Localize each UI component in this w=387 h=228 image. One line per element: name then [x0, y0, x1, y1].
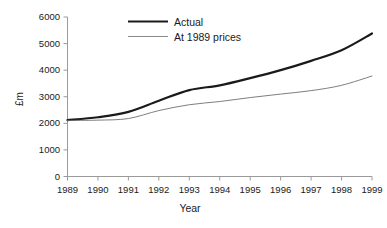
y-axis-tick-label: 4000 — [18, 65, 60, 75]
y-axis-tick-label: 0 — [18, 172, 60, 182]
x-axis-ticks — [68, 177, 373, 181]
x-axis-tick-label: 1994 — [204, 185, 236, 195]
y-axis-ticks — [64, 17, 68, 177]
series-line-actual — [68, 33, 373, 120]
data-series-group — [68, 33, 373, 120]
x-axis-tick-label: 1992 — [143, 185, 175, 195]
y-axis-tick-label: 5000 — [18, 39, 60, 49]
y-axis-tick-label: 2000 — [18, 118, 60, 128]
x-axis-tick-label: 1990 — [82, 185, 114, 195]
legend-label-at-1989-prices: At 1989 prices — [174, 32, 241, 43]
x-axis-tick-label: 1998 — [326, 185, 358, 195]
x-axis-tick-label: 1997 — [295, 185, 327, 195]
y-axis-tick-label: 1000 — [18, 145, 60, 155]
legend-label-actual: Actual — [174, 17, 203, 28]
x-axis-tick-label: 1995 — [234, 185, 266, 195]
x-axis-title: Year — [0, 203, 380, 214]
x-axis-tick-label: 1999 — [356, 185, 387, 195]
y-axis-tick-label: 6000 — [18, 12, 60, 22]
x-axis-tick-label: 1993 — [173, 185, 205, 195]
x-axis-tick-label: 1989 — [52, 185, 84, 195]
legend-swatch-group — [128, 22, 168, 37]
x-axis-tick-label: 1996 — [265, 185, 297, 195]
y-axis-title: £m — [15, 92, 25, 106]
x-axis-tick-label: 1991 — [112, 185, 144, 195]
series-line-at-1989-prices — [68, 76, 373, 120]
